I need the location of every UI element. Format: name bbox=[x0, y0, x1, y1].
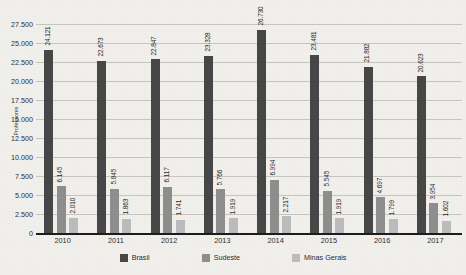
bar-value-label: 21.882 bbox=[364, 44, 370, 63]
bar-value-label: 5.845 bbox=[110, 169, 116, 185]
legend-swatch bbox=[120, 254, 128, 262]
bar-value-label: 1.863 bbox=[123, 199, 129, 215]
bar-value-label: 23.481 bbox=[311, 32, 317, 51]
legend-swatch bbox=[202, 254, 210, 262]
bar-value-label: 1.602 bbox=[442, 201, 448, 217]
bar-group: 20.6233.9541.602 bbox=[409, 24, 462, 233]
bar bbox=[270, 180, 279, 233]
bar bbox=[69, 218, 78, 233]
legend-item[interactable]: Sudeste bbox=[202, 253, 240, 262]
legend-label: Sudeste bbox=[214, 253, 240, 262]
bar-group: 22.8476.1171.741 bbox=[143, 24, 196, 233]
bar bbox=[323, 191, 332, 233]
bar bbox=[310, 55, 319, 233]
bar bbox=[364, 67, 373, 233]
bar-value-label: 3.954 bbox=[430, 183, 436, 199]
bar bbox=[376, 197, 385, 233]
bar-group: 23.4815.5451.919 bbox=[302, 24, 355, 233]
y-axis-tick-label: 12.500 bbox=[1, 134, 33, 143]
bar bbox=[97, 61, 106, 233]
x-axis-line bbox=[36, 233, 462, 235]
legend: BrasilSudesteMinas Gerais bbox=[0, 253, 466, 262]
y-axis-tick-label: 15.000 bbox=[1, 115, 33, 124]
bar-value-label: 5.766 bbox=[217, 170, 223, 186]
x-axis-category-label: 2015 bbox=[302, 236, 355, 245]
bar-value-label: 2.217 bbox=[282, 197, 288, 213]
bar-value-label: 1.799 bbox=[389, 200, 395, 216]
bar bbox=[44, 50, 53, 233]
bar-value-label: 6.994 bbox=[270, 160, 276, 176]
bar-value-label: 1.919 bbox=[229, 199, 235, 215]
bar bbox=[163, 187, 172, 233]
y-axis-tick-labels: 27.50025.00022.50020.00017.50015.00012.5… bbox=[0, 24, 33, 233]
legend-label: Brasil bbox=[132, 253, 150, 262]
bar bbox=[57, 186, 66, 233]
bar-chart: Professores 27.50025.00022.50020.00017.5… bbox=[0, 0, 466, 275]
bar-group: 22.6735.8451.863 bbox=[89, 24, 142, 233]
bar-value-label: 20.623 bbox=[417, 53, 423, 72]
bar-value-label: 2.010 bbox=[69, 198, 75, 214]
bar-value-label: 23.328 bbox=[204, 33, 210, 52]
bar bbox=[282, 216, 291, 233]
y-axis-tick-label: 5.000 bbox=[1, 191, 33, 200]
x-axis-category-label: 2017 bbox=[409, 236, 462, 245]
bar bbox=[216, 189, 225, 233]
bar-group: 23.3285.7661.919 bbox=[196, 24, 249, 233]
legend-item[interactable]: Minas Gerais bbox=[292, 253, 346, 262]
bar-value-label: 4.697 bbox=[376, 178, 382, 194]
bar-value-label: 26.730 bbox=[257, 7, 263, 26]
y-axis-tick-label: 25.000 bbox=[1, 39, 33, 48]
bar-value-label: 22.847 bbox=[151, 36, 157, 55]
bar-value-label: 1.741 bbox=[176, 200, 182, 216]
y-axis-tick-label: 27.500 bbox=[1, 20, 33, 29]
y-axis-tick-label: 10.000 bbox=[1, 153, 33, 162]
x-axis-category-label: 2013 bbox=[196, 236, 249, 245]
x-axis-category-label: 2011 bbox=[89, 236, 142, 245]
bar-value-label: 24.121 bbox=[44, 27, 50, 46]
x-axis-category-label: 2016 bbox=[356, 236, 409, 245]
bar-group: 26.7306.9942.217 bbox=[249, 24, 302, 233]
bar bbox=[429, 203, 438, 233]
bar bbox=[335, 218, 344, 233]
y-axis-tick-label: 17.500 bbox=[1, 96, 33, 105]
x-axis-category-label: 2014 bbox=[249, 236, 302, 245]
bar bbox=[257, 30, 266, 233]
bar bbox=[176, 220, 185, 233]
bar-group: 24.1216.1452.010 bbox=[36, 24, 89, 233]
bar-value-label: 5.545 bbox=[323, 171, 329, 187]
bar-value-label: 6.145 bbox=[57, 167, 63, 183]
bar-value-label: 6.117 bbox=[163, 167, 169, 182]
bar bbox=[110, 189, 119, 233]
legend-swatch bbox=[292, 254, 300, 262]
bar bbox=[417, 76, 426, 233]
y-axis-tick-label: 7.500 bbox=[1, 172, 33, 181]
bar bbox=[442, 221, 451, 233]
bar bbox=[204, 56, 213, 233]
bar-value-label: 1.919 bbox=[336, 199, 342, 215]
bar bbox=[389, 219, 398, 233]
x-axis-category-label: 2010 bbox=[36, 236, 89, 245]
bar-value-label: 22.673 bbox=[98, 38, 104, 57]
plot-area: 24.1216.1452.01022.6735.8451.86322.8476.… bbox=[36, 24, 462, 233]
legend-item[interactable]: Brasil bbox=[120, 253, 150, 262]
bar bbox=[229, 218, 238, 233]
y-axis-tick-label: 20.000 bbox=[1, 77, 33, 86]
x-axis-category-label: 2012 bbox=[143, 236, 196, 245]
legend-label: Minas Gerais bbox=[304, 253, 346, 262]
y-axis-tick-label: 22.500 bbox=[1, 58, 33, 67]
bar bbox=[122, 219, 131, 233]
bar-group: 21.8824.6971.799 bbox=[356, 24, 409, 233]
y-axis-tick-label: 0 bbox=[1, 229, 33, 238]
y-axis-tick-label: 2.500 bbox=[1, 210, 33, 219]
bar bbox=[151, 59, 160, 233]
